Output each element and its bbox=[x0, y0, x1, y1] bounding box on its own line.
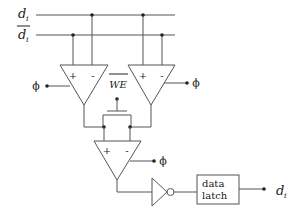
clock-terminal-dot bbox=[185, 81, 189, 85]
junction-dot bbox=[160, 33, 164, 37]
amp-bottom-output-wire bbox=[117, 180, 152, 192]
svg-text:-: - bbox=[160, 70, 163, 81]
clock-terminal-dot bbox=[45, 84, 49, 88]
svg-text:i: i bbox=[26, 14, 29, 23]
svg-text:i: i bbox=[26, 35, 29, 44]
junction-dot bbox=[71, 33, 75, 37]
svg-text:+: + bbox=[69, 70, 77, 81]
svg-text:WE: WE bbox=[109, 79, 127, 90]
inverter bbox=[152, 178, 174, 206]
write-enable-label: WE bbox=[109, 74, 128, 90]
data-latch: data latch bbox=[197, 175, 239, 204]
d-bar-label: d i bbox=[17, 26, 30, 44]
amp-left-output-wire bbox=[84, 105, 105, 127]
svg-text:+: + bbox=[103, 145, 111, 156]
clock-phi-label: ϕ bbox=[192, 77, 200, 90]
d-label: d i bbox=[18, 6, 29, 23]
sense-amp-left: + - bbox=[60, 65, 108, 105]
clock-terminal-dot bbox=[152, 159, 156, 163]
svg-text:data: data bbox=[202, 178, 224, 189]
amp-right-output-wire bbox=[130, 105, 151, 127]
junction-dot bbox=[90, 13, 94, 17]
svg-text:-: - bbox=[91, 70, 94, 81]
svg-text:i: i bbox=[284, 191, 287, 200]
svg-text:-: - bbox=[125, 145, 128, 156]
pass-transistor bbox=[103, 111, 131, 127]
output-label: d i bbox=[276, 183, 287, 200]
sense-amp-right: + - bbox=[128, 65, 175, 105]
svg-text:latch: latch bbox=[202, 190, 228, 201]
svg-text:+: + bbox=[139, 70, 147, 81]
junction-dot bbox=[141, 13, 145, 17]
clock-phi-label: ϕ bbox=[32, 80, 40, 93]
circuit-diagram: d i d i + - ϕ + - ϕ WE bbox=[0, 0, 300, 214]
output-terminal-dot bbox=[262, 187, 266, 191]
clock-phi-label: ϕ bbox=[159, 155, 167, 168]
